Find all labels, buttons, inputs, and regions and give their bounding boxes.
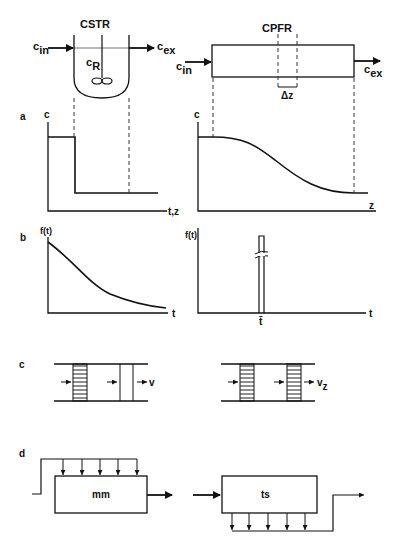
axis-break-gap (258, 253, 265, 256)
panel-a-right-xlabel: z (369, 200, 374, 211)
panel-a-right-axes (198, 122, 376, 211)
panel-c-label: c (19, 359, 25, 370)
cpfr-concentration-curve (198, 137, 368, 193)
cstr-rtd-curve (48, 242, 166, 308)
dz-label: Δz (281, 90, 293, 101)
mean-residence-time-tick: t̄ (259, 316, 263, 327)
panel-c: c v vz (19, 359, 328, 401)
panel-a-left-ylabel: c (44, 109, 50, 120)
cpfr-title: CPFR (262, 22, 292, 34)
cstr-outlet-label: cex (157, 40, 176, 56)
cstr-title: CSTR (80, 18, 110, 30)
panel-d-label: d (19, 448, 25, 459)
velocity-label: vz (317, 377, 328, 392)
cstr-concentration-curve (48, 137, 158, 193)
velocity-label: v (149, 377, 155, 388)
cpfr-rtd-spike (259, 236, 264, 313)
panel-b-label: b (20, 232, 26, 243)
panel-a: a c t,z c z (20, 78, 376, 217)
hatched-fluid-element (240, 364, 254, 401)
cpfr-schematic: CPFR cin cex Δz (176, 22, 383, 101)
hatched-fluid-element (73, 364, 87, 401)
panel-a-left-xlabel: t,z (168, 206, 179, 217)
panel-b-right-xlabel: t (369, 308, 373, 319)
panel-b: b f(t) t f(t) t t̄ (20, 226, 373, 327)
cpfr-tube (212, 45, 354, 77)
stirrer-blade-icon (92, 78, 102, 84)
panel-a-label: a (20, 111, 26, 122)
panel-a-left-axes (48, 122, 167, 211)
panel-b-left-axes (48, 237, 168, 313)
cstr-interior-label: cR (86, 56, 100, 72)
mm-label: mm (92, 489, 110, 500)
panel-a-right-ylabel: c (194, 109, 200, 120)
cstr-inlet-label: cin (33, 40, 49, 56)
panel-b-right-axes (198, 228, 366, 313)
panel-b-right-ylabel: f(t) (185, 230, 197, 240)
stirrer-blade-icon (102, 78, 112, 84)
panel-b-left-xlabel: t (172, 308, 176, 319)
hatched-fluid-element (287, 364, 301, 401)
cstr-schematic: CSTR cin cex cR (33, 18, 176, 98)
reactor-figure: CSTR cin cex cR CPFR cin cex Δz a c t,z (0, 0, 398, 538)
panel-d: d mm ts (19, 448, 364, 531)
cpfr-outlet-label: cex (364, 63, 383, 79)
ts-label: ts (261, 489, 270, 500)
panel-b-left-ylabel: f(t) (40, 226, 52, 236)
